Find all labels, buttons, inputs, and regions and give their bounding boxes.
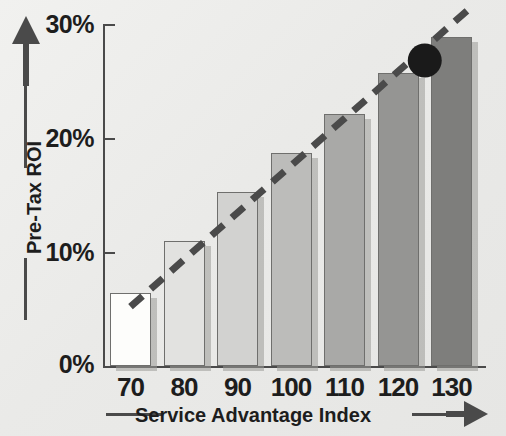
bar-70 <box>110 293 151 366</box>
x-tick-label-70: 70 <box>117 372 144 403</box>
y-tick-label-30: 30% <box>38 10 94 39</box>
bar-120 <box>378 73 419 366</box>
x-tick-label-100: 100 <box>271 372 311 403</box>
bar-rect <box>164 241 205 366</box>
plot-area <box>105 10 486 366</box>
x-tick-label-120: 120 <box>378 372 418 403</box>
y-tick-label-0: 0% <box>38 350 94 379</box>
x-tick-label-130: 130 <box>431 372 471 403</box>
x-axis-title: Service Advantage Index <box>0 404 506 427</box>
y-tick-label-10: 10% <box>38 238 94 267</box>
bar-100 <box>271 153 312 366</box>
bar-rect <box>271 153 312 366</box>
x-tick-label-80: 80 <box>171 372 198 403</box>
bar-rect <box>324 114 365 366</box>
bar-80 <box>164 241 205 366</box>
chart-canvas: Pre-Tax ROI 30% 20% 10% 0% 7080901001101… <box>0 0 506 436</box>
bar-rect <box>378 73 419 366</box>
y-tick-label-20: 20% <box>38 124 94 153</box>
bar-90 <box>217 192 258 366</box>
bar-rect <box>431 37 472 366</box>
bar-130 <box>431 37 472 366</box>
x-tick-label-110: 110 <box>325 372 364 403</box>
bar-110 <box>324 114 365 366</box>
bar-rect <box>217 192 258 366</box>
bar-rect <box>110 293 151 366</box>
x-tick-label-90: 90 <box>224 372 251 403</box>
